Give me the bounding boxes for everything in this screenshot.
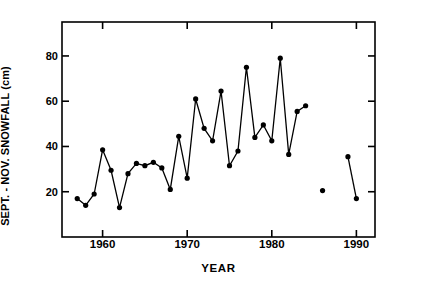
axes-frame <box>62 22 375 237</box>
plot-area <box>0 0 448 292</box>
tick-marks <box>62 22 375 237</box>
data-point-group <box>75 56 359 211</box>
snowfall-time-series-chart: SEPT. - NOV. SNOWFALL (cm) 20 40 60 80 1… <box>0 0 448 292</box>
data-line-group <box>77 58 356 207</box>
